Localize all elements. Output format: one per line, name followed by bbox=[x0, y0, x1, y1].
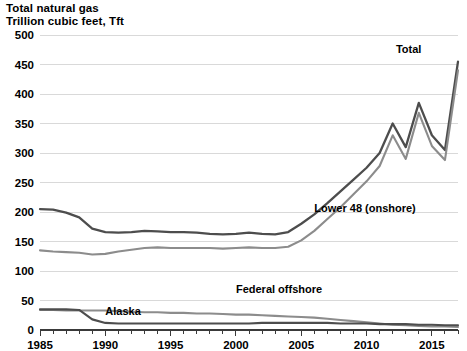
series-label-lower-48-onshore: Lower 48 (onshore) bbox=[314, 202, 416, 214]
x-axis-tick-label: 2000 bbox=[223, 339, 249, 351]
gridlines-group bbox=[40, 35, 458, 301]
y-axis-tick-label: 450 bbox=[15, 59, 34, 71]
y-axis-tick-label: 50 bbox=[21, 295, 34, 307]
x-axis-ticks bbox=[40, 330, 458, 336]
x-axis-tick-label: 1985 bbox=[27, 339, 53, 351]
y-axis-tick-label: 400 bbox=[15, 88, 34, 100]
series-line-lower-48-onshore bbox=[40, 70, 458, 254]
x-axis-tick-label: 2015 bbox=[419, 339, 445, 351]
y-axis-tick-label: 300 bbox=[15, 147, 34, 159]
y-axis-tick-labels: 050100150200250300350400450500 bbox=[15, 29, 34, 336]
series-annotation-labels: TotalLower 48 (onshore)Federal offshoreA… bbox=[105, 43, 421, 317]
y-axis-tick-label: 0 bbox=[28, 324, 34, 336]
y-axis-tick-label: 200 bbox=[15, 206, 34, 218]
y-axis-tick-label: 100 bbox=[15, 265, 34, 277]
x-axis-tick-label: 2005 bbox=[288, 339, 314, 351]
x-axis-tick-label: 1995 bbox=[158, 339, 184, 351]
series-label-alaska: Alaska bbox=[105, 305, 141, 317]
series-line-alaska bbox=[40, 309, 458, 325]
series-label-total: Total bbox=[396, 43, 421, 55]
x-axis-tick-label: 2010 bbox=[354, 339, 380, 351]
y-axis-tick-label: 500 bbox=[15, 29, 34, 41]
y-axis-tick-label: 250 bbox=[15, 177, 34, 189]
chart-figure: Total natural gas Trillion cubic feet, T… bbox=[0, 0, 467, 351]
y-axis-tick-label: 150 bbox=[15, 236, 34, 248]
line-chart-plot: 050100150200250300350400450500 198519901… bbox=[0, 0, 467, 351]
x-axis-tick-label: 1990 bbox=[93, 339, 119, 351]
x-axis-tick-labels: 1985199019952000200520102015 bbox=[27, 339, 445, 351]
series-label-federal-offshore: Federal offshore bbox=[236, 283, 322, 295]
y-axis-tick-label: 350 bbox=[15, 118, 34, 130]
